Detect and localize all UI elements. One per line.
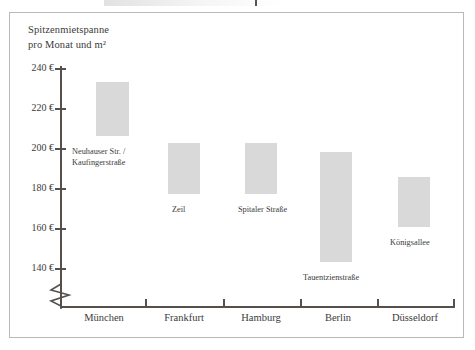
y-axis-title-line2: pro Monat und m² xyxy=(28,37,109,52)
chart-frame xyxy=(9,12,464,338)
y-axis-title: Spitzenmietspanne pro Monat und m² xyxy=(28,22,109,52)
cropped-header-mark xyxy=(255,0,257,6)
cropped-header-sliver xyxy=(104,0,284,6)
y-axis-title-line1: Spitzenmietspanne xyxy=(28,24,109,35)
chart-screenshot: Spitzenmietspanne pro Monat und m² 240 €… xyxy=(0,0,475,350)
